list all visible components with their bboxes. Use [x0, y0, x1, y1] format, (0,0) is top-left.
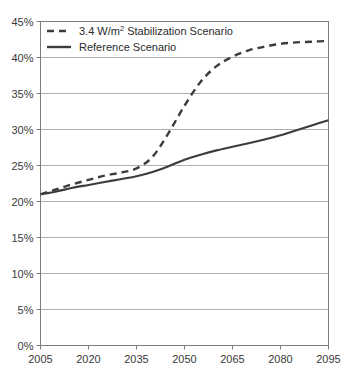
y-axis-labels: 0%5%10%15%20%25%30%35%40%45%	[11, 16, 33, 352]
chart-legend: 3.4 W/m2 Stabilization ScenarioReference…	[47, 24, 233, 53]
data-series	[41, 41, 329, 194]
legend-label: 3.4 W/m2 Stabilization Scenario	[79, 24, 233, 37]
x-axis-tick-label: 2020	[76, 353, 100, 365]
series-line-2	[41, 120, 329, 194]
x-axis-tick-label: 2080	[268, 353, 292, 365]
x-axis-tickmarks	[41, 346, 329, 350]
x-axis-tick-label: 2065	[220, 353, 244, 365]
y-axis-tick-label: 10%	[11, 268, 33, 280]
plot-frame	[41, 22, 329, 346]
y-axis-tick-label: 20%	[11, 196, 33, 208]
line-chart: 0%5%10%15%20%25%30%35%40%45% 20052020203…	[0, 0, 355, 370]
y-axis-tick-label: 15%	[11, 232, 33, 244]
legend-label: Reference Scenario	[79, 41, 176, 53]
y-axis-tick-label: 25%	[11, 160, 33, 172]
x-axis-tick-label: 2050	[172, 353, 196, 365]
series-line-1	[41, 41, 329, 194]
y-axis-tickmarks	[37, 22, 41, 346]
gridlines	[41, 58, 329, 310]
x-axis-labels: 2005202020352050206520802095	[28, 353, 340, 365]
y-axis-tick-label: 45%	[11, 16, 33, 28]
y-axis-tick-label: 30%	[11, 124, 33, 136]
chart-container: 0%5%10%15%20%25%30%35%40%45% 20052020203…	[0, 0, 355, 370]
x-axis-tick-label: 2035	[124, 353, 148, 365]
x-axis-tick-label: 2005	[28, 353, 52, 365]
x-axis-tick-label: 2095	[316, 353, 340, 365]
y-axis-tick-label: 40%	[11, 52, 33, 64]
y-axis-tick-label: 35%	[11, 88, 33, 100]
y-axis-tick-label: 5%	[18, 304, 34, 316]
y-axis-tick-label: 0%	[18, 340, 34, 352]
